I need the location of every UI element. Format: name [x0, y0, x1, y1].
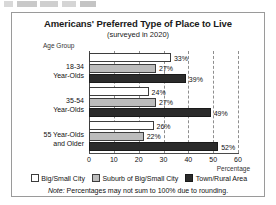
category-label-line: and Older — [12, 140, 84, 149]
legend-label: Big/Small City — [41, 175, 85, 182]
x-tick-0: 0 — [87, 156, 91, 163]
note-prefix: Note: — [48, 187, 65, 194]
x-tick-30: 30 — [160, 156, 168, 163]
bar-rural — [89, 74, 186, 83]
chart-note: Note: Percentages may not sum to 100% du… — [12, 187, 264, 194]
bar-value-label: 22% — [147, 132, 161, 141]
bar-suburb — [89, 64, 156, 73]
legend-item[interactable]: Big/Small City — [31, 174, 85, 182]
x-axis-line — [89, 153, 239, 154]
bar-rural — [89, 142, 218, 151]
legend-label: Town/Rural Area — [196, 175, 247, 182]
bar-row: 27% — [89, 64, 238, 73]
category-label: 35-54Year-Olds — [12, 97, 84, 114]
bar-row: 39% — [89, 74, 238, 83]
remnant-mark — [40, 1, 58, 7]
chart-title: Americans' Preferred Type of Place to Li… — [12, 18, 264, 29]
category-label-line: 35-54 — [12, 97, 84, 106]
bar-city — [89, 121, 154, 130]
legend-swatch-suburb — [92, 174, 100, 182]
note-text: Percentages may not sum to 100% due to r… — [67, 187, 229, 194]
x-axis-title: Percentage — [217, 165, 250, 172]
bar-value-label: 24% — [152, 88, 166, 97]
chart-container: Americans' Preferred Type of Place to Li… — [11, 12, 265, 197]
bar-suburb — [89, 132, 144, 141]
x-tick-50: 50 — [209, 156, 217, 163]
legend-label: Suburb of Big/Small City — [102, 175, 178, 182]
bar-value-label: 27% — [159, 98, 173, 107]
bar-value-label: 33% — [174, 54, 188, 63]
bar-row: 22% — [89, 132, 238, 141]
bar-rural — [89, 108, 211, 117]
category-label-line: Year-Olds — [12, 72, 84, 81]
category-label: 55 Year-Oldsand Older — [12, 131, 84, 148]
bar-row: 52% — [89, 142, 238, 151]
bar-value-label: 52% — [221, 143, 235, 152]
remnant-mark — [17, 1, 37, 7]
x-tick-40: 40 — [184, 156, 192, 163]
bar-value-label: 27% — [159, 64, 173, 73]
category-label-line: 55 Year-Olds — [12, 131, 84, 140]
chart-legend: Big/Small CitySuburb of Big/Small CityTo… — [20, 174, 258, 182]
bar-row: 33% — [89, 53, 238, 62]
bar-row: 26% — [89, 121, 238, 130]
legend-item[interactable]: Suburb of Big/Small City — [92, 174, 178, 182]
remnant-mark — [62, 1, 76, 7]
category-axis-title: Age Group — [43, 42, 74, 49]
remnant-mark — [80, 1, 96, 7]
category-label: 18-34Year-Olds — [12, 63, 84, 80]
chart-subtitle: (surveyed in 2020) — [12, 30, 264, 39]
remnant-mark — [4, 1, 13, 7]
bar-city — [89, 87, 149, 96]
bar-city — [89, 53, 171, 62]
bar-value-label: 39% — [189, 75, 203, 84]
bar-suburb — [89, 98, 156, 107]
bar-row: 24% — [89, 87, 238, 96]
x-tick-20: 20 — [135, 156, 143, 163]
bar-value-label: 26% — [157, 122, 171, 131]
x-tick-10: 10 — [110, 156, 118, 163]
bar-row: 27% — [89, 98, 238, 107]
legend-item[interactable]: Town/Rural Area — [185, 174, 247, 182]
bar-value-label: 49% — [214, 109, 228, 118]
legend-swatch-city — [31, 174, 39, 182]
gridline-60 — [238, 51, 239, 153]
cropped-toolbar-remnant — [0, 0, 276, 9]
legend-swatch-rural — [185, 174, 193, 182]
plot-area: 33%27%39%24%27%49%26%22%52% — [89, 51, 238, 153]
bar-row: 49% — [89, 108, 238, 117]
x-tick-60: 60 — [234, 156, 242, 163]
category-label-line: Year-Olds — [12, 106, 84, 115]
category-label-line: 18-34 — [12, 63, 84, 72]
